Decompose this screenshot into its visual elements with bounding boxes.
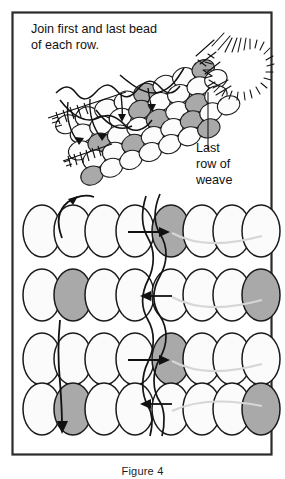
- bead-shaded: [242, 269, 280, 321]
- bead-shaded: [242, 383, 280, 435]
- bead: [116, 333, 154, 385]
- bottom-flat-diagram: [0, 0, 285, 479]
- bead: [242, 333, 280, 385]
- bead-row-3: [23, 333, 280, 385]
- bead-row-2: [23, 269, 280, 321]
- bead: [242, 205, 280, 257]
- light-thread-overlay: [172, 233, 262, 411]
- bead: [116, 205, 154, 257]
- figure-caption: Figure 4: [0, 458, 285, 479]
- figure-container: Join first and last bead of each row. La…: [0, 0, 285, 479]
- bead: [116, 383, 154, 435]
